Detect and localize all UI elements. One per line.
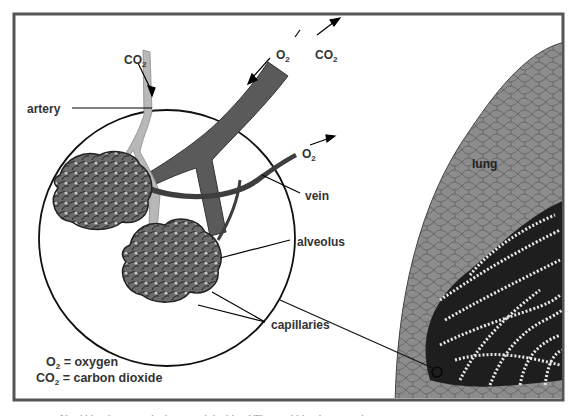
legend-carbon-dioxide: CO2 = carbon dioxide [36,370,162,391]
label-capillaries: capillaries [271,319,330,331]
alveolus-cluster-upper [53,152,151,230]
label-co2-entering: CO2 [124,54,146,69]
label-co2-exiting: CO2 [315,49,337,64]
label-o2-vein: O2 [302,148,316,163]
label-alveolus: alveolus [297,236,345,248]
label-o2-entering: O2 [276,49,290,64]
gas-exchange-diagram: CO2 O2 CO2 O2 artery vein alveolus capil… [0,0,577,416]
figure-caption: Used blood oxygen the lungs and the bloo… [60,407,540,416]
label-artery: artery [27,103,60,115]
label-vein: vein [305,190,329,202]
label-lung: lung [472,158,497,170]
